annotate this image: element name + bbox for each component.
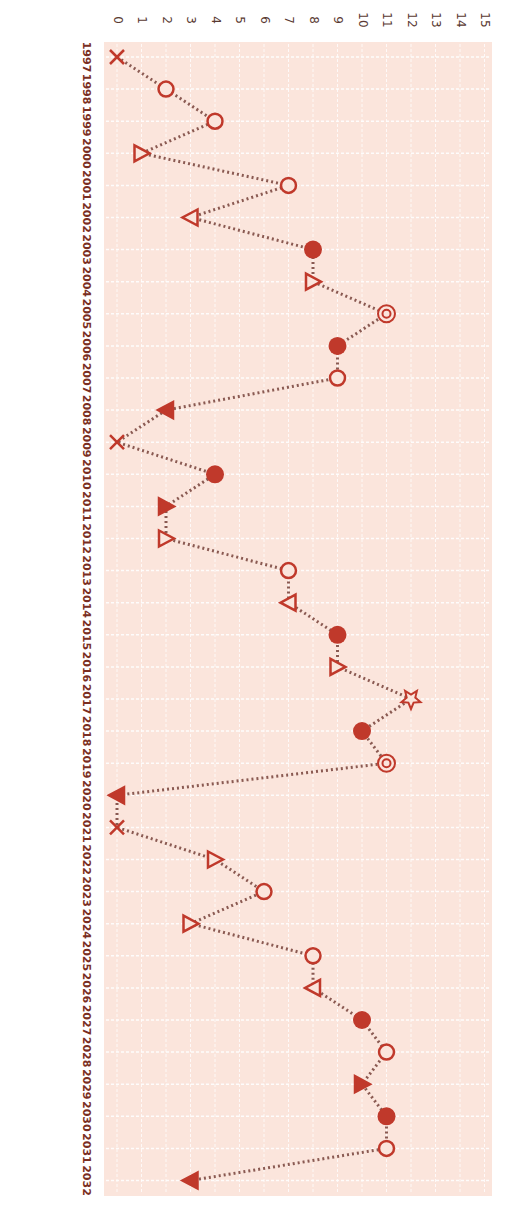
year-label: 1997 [80, 42, 93, 73]
circle-marker-icon [379, 1141, 394, 1156]
circle-marker-icon [208, 114, 223, 129]
year-label: 2029 [80, 1069, 93, 1100]
value-tick-label: 11 [380, 12, 394, 27]
year-label: 2031 [80, 1133, 93, 1164]
dot-marker-icon [378, 1107, 396, 1125]
year-label: 2016 [80, 652, 93, 683]
year-label: 2027 [80, 1005, 93, 1036]
value-tick-label: 1 [135, 16, 149, 24]
line-chart: 0123456789101112131415 19971998199920002… [0, 0, 516, 1212]
year-label: 2028 [80, 1037, 93, 1068]
circle-marker-icon [330, 371, 345, 386]
year-label: 2004 [80, 266, 93, 297]
year-label: 2000 [80, 138, 93, 169]
year-label: 2003 [80, 234, 93, 265]
value-tick-label: 13 [429, 12, 443, 27]
dot-marker-icon [329, 626, 347, 644]
value-tick-label: 15 [478, 12, 492, 27]
circle-marker-icon [379, 1045, 394, 1060]
value-tick-label: 4 [209, 16, 223, 24]
year-label: 2021 [80, 812, 93, 843]
dot-marker-icon [329, 337, 347, 355]
year-label: 2032 [80, 1165, 93, 1196]
year-label: 2022 [80, 844, 93, 875]
dot-marker-icon [304, 241, 322, 259]
value-axis-ticks: 0123456789101112131415 [111, 12, 493, 27]
year-label: 2030 [80, 1101, 93, 1132]
value-tick-label: 9 [331, 16, 345, 24]
circle-marker-icon [159, 82, 174, 97]
year-label: 2013 [80, 555, 93, 586]
circle-marker-icon [281, 178, 296, 193]
value-tick-label: 6 [258, 16, 272, 24]
year-label: 2015 [80, 619, 93, 650]
bullseye-marker-icon [378, 755, 395, 772]
year-label: 2020 [80, 780, 93, 811]
year-axis-labels: 1997199819992000200120022003200420052006… [80, 42, 93, 1196]
value-tick-label: 3 [184, 16, 198, 24]
value-tick-label: 14 [454, 12, 468, 27]
dot-marker-icon [353, 1011, 371, 1029]
value-tick-label: 2 [160, 16, 174, 24]
year-label: 2019 [80, 748, 93, 779]
bullseye-marker-icon [378, 305, 395, 322]
circle-marker-icon [281, 563, 296, 578]
value-tick-label: 8 [307, 16, 321, 24]
year-label: 2017 [80, 684, 93, 715]
year-label: 2025 [80, 940, 93, 971]
year-label: 2023 [80, 876, 93, 907]
year-label: 2014 [80, 587, 93, 618]
year-label: 2012 [80, 523, 93, 554]
year-label: 2009 [80, 427, 93, 458]
year-label: 2010 [80, 459, 93, 490]
value-tick-label: 7 [282, 16, 296, 24]
year-label: 1998 [80, 74, 93, 105]
year-label: 2001 [80, 170, 93, 201]
year-label: 1999 [80, 106, 93, 137]
value-tick-label: 5 [233, 16, 247, 24]
year-label: 2002 [80, 202, 93, 233]
circle-marker-icon [306, 948, 321, 963]
year-label: 2007 [80, 363, 93, 394]
year-label: 2018 [80, 716, 93, 747]
dot-marker-icon [353, 722, 371, 740]
value-tick-label: 0 [111, 16, 125, 24]
year-label: 2006 [80, 331, 93, 362]
plot-area [104, 42, 492, 1196]
year-label: 2011 [80, 491, 93, 522]
circle-marker-icon [257, 884, 272, 899]
year-label: 2024 [80, 908, 93, 939]
year-label: 2026 [80, 973, 93, 1004]
year-label: 2005 [80, 298, 93, 329]
value-tick-label: 10 [356, 12, 370, 27]
dot-marker-icon [206, 465, 224, 483]
value-tick-label: 12 [405, 12, 419, 27]
year-label: 2008 [80, 395, 93, 426]
